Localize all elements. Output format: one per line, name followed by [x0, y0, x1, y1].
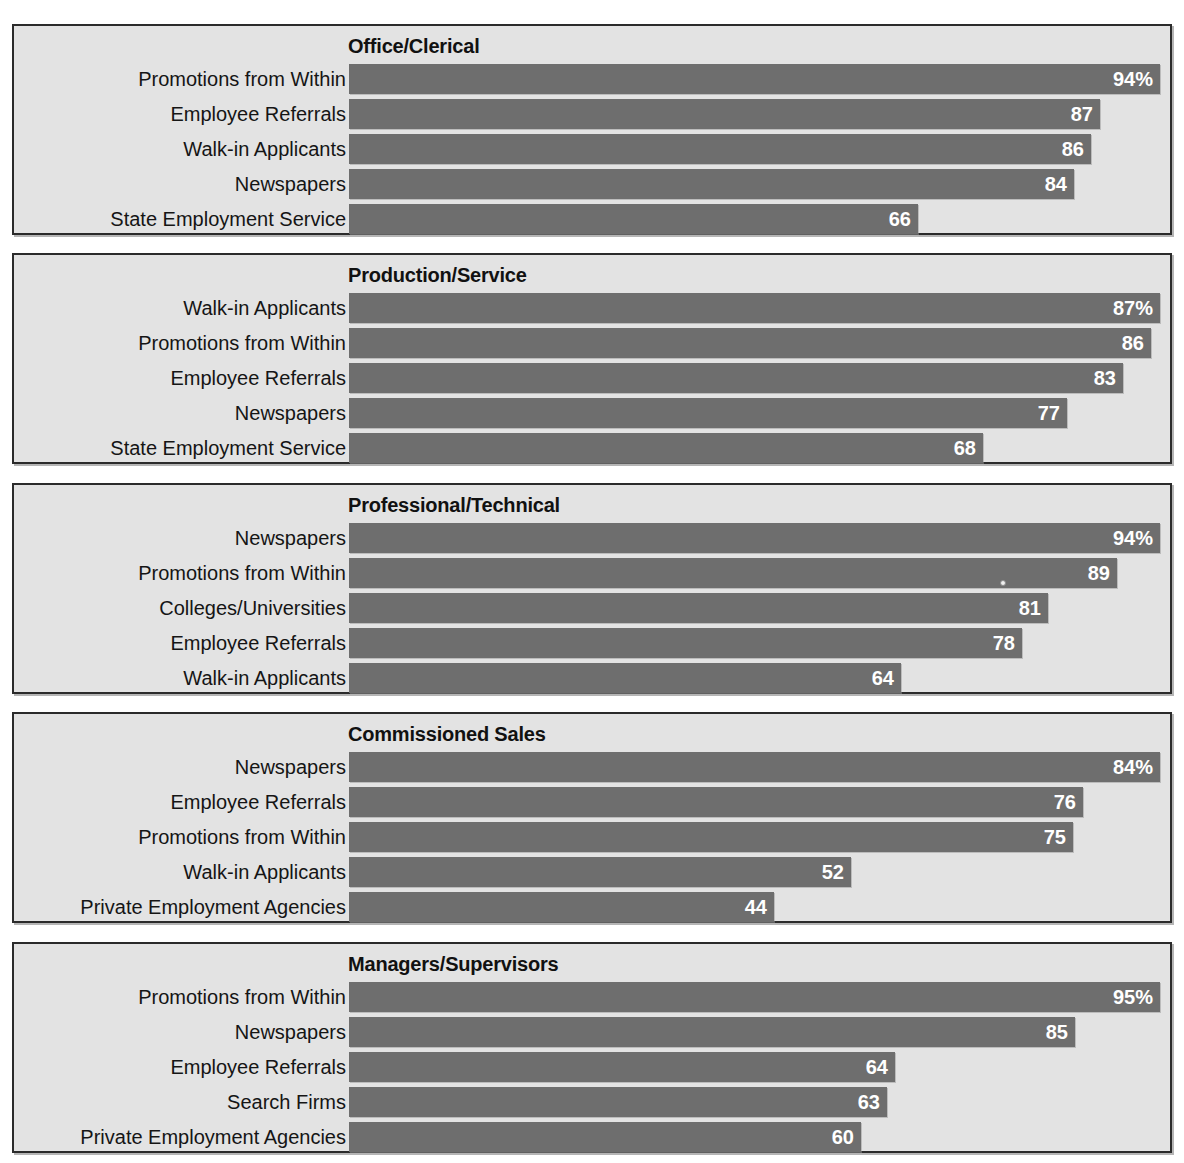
bar-track: 94%	[349, 64, 1156, 94]
bar-value-label: 63	[858, 1087, 880, 1117]
bar-track: 64	[349, 663, 1156, 693]
bar: 64	[349, 663, 901, 693]
bar-track: 75	[349, 822, 1156, 852]
bar-value-label: 60	[832, 1122, 854, 1152]
bar-row: Promotions from Within75	[14, 822, 1170, 852]
bar-value-label: 64	[866, 1052, 888, 1082]
panel-3: Professional/TechnicalNewspapers94%Promo…	[12, 483, 1172, 694]
bar-value-label: 76	[1054, 787, 1076, 817]
bar-track: 87%	[349, 293, 1156, 323]
panel-title: Professional/Technical	[348, 494, 560, 517]
bar: 83	[349, 363, 1123, 393]
bar-value-label: 77	[1038, 398, 1060, 428]
bar-row: Promotions from Within89	[14, 558, 1170, 588]
bar-value-label: 87	[1071, 99, 1093, 129]
bar-category-label: Walk-in Applicants	[0, 860, 346, 884]
bar-track: 85	[349, 1017, 1156, 1047]
bar-value-label: 83	[1094, 363, 1116, 393]
bar-value-label: 85	[1046, 1017, 1068, 1047]
bar-value-label: 87%	[1113, 293, 1153, 323]
bar-value-label: 84%	[1113, 752, 1153, 782]
bar-value-label: 75	[1044, 822, 1066, 852]
bar-track: 86	[349, 328, 1156, 358]
bar-value-label: 66	[889, 204, 911, 234]
bar-row: Employee Referrals83	[14, 363, 1170, 393]
bar-track: 66	[349, 204, 1156, 234]
bar-row: Promotions from Within95%	[14, 982, 1170, 1012]
bar-row: Newspapers85	[14, 1017, 1170, 1047]
bar: 63	[349, 1087, 887, 1117]
bar: 81	[349, 593, 1048, 623]
bar-category-label: Walk-in Applicants	[0, 137, 346, 161]
bar-track: 81	[349, 593, 1156, 623]
bar-track: 87	[349, 99, 1156, 129]
bar-row: Private Employment Agencies44	[14, 892, 1170, 922]
bar-value-label: 95%	[1113, 982, 1153, 1012]
bar-category-label: Promotions from Within	[0, 67, 346, 91]
bar-track: 84%	[349, 752, 1156, 782]
bar-category-label: Newspapers	[0, 526, 346, 550]
bar: 85	[349, 1017, 1075, 1047]
bar: 66	[349, 204, 918, 234]
bar-track: 52	[349, 857, 1156, 887]
bar-row: Promotions from Within86	[14, 328, 1170, 358]
bar-value-label: 86	[1122, 328, 1144, 358]
bar-row: Newspapers84%	[14, 752, 1170, 782]
bar: 94%	[349, 64, 1160, 94]
bar: 75	[349, 822, 1073, 852]
bar-track: 78	[349, 628, 1156, 658]
bar-row: State Employment Service68	[14, 433, 1170, 463]
bar-row: Search Firms63	[14, 1087, 1170, 1117]
bar-category-label: Newspapers	[0, 755, 346, 779]
bar-track: 86	[349, 134, 1156, 164]
bar-category-label: Search Firms	[0, 1090, 346, 1114]
panel-rows: Walk-in Applicants87%Promotions from Wit…	[14, 293, 1170, 468]
panel-rows: Promotions from Within94%Employee Referr…	[14, 64, 1170, 239]
bar: 86	[349, 328, 1151, 358]
bar-row: Promotions from Within94%	[14, 64, 1170, 94]
bar: 87%	[349, 293, 1160, 323]
bar-value-label: 89	[1088, 558, 1110, 588]
bar-row: Newspapers84	[14, 169, 1170, 199]
recruitment-sources-chart: Office/ClericalPromotions from Within94%…	[0, 0, 1184, 1163]
bar-track: 89	[349, 558, 1156, 588]
bar-value-label: 64	[872, 663, 894, 693]
bar-value-label: 68	[954, 433, 976, 463]
bar-value-label: 94%	[1113, 523, 1153, 553]
bar-row: State Employment Service66	[14, 204, 1170, 234]
bar-category-label: Private Employment Agencies	[0, 895, 346, 919]
bar: 95%	[349, 982, 1160, 1012]
panel-5: Managers/SupervisorsPromotions from With…	[12, 942, 1172, 1153]
bar-value-label: 84	[1045, 169, 1067, 199]
panel-title: Managers/Supervisors	[348, 953, 559, 976]
panel-title: Production/Service	[348, 264, 527, 287]
bar-category-label: Employee Referrals	[0, 631, 346, 655]
panel-title: Commissioned Sales	[348, 723, 546, 746]
bar: 60	[349, 1122, 861, 1152]
bar: 77	[349, 398, 1067, 428]
bar-value-label: 78	[993, 628, 1015, 658]
bar-category-label: Newspapers	[0, 401, 346, 425]
bar-row: Newspapers77	[14, 398, 1170, 428]
bar-track: 63	[349, 1087, 1156, 1117]
bar-row: Employee Referrals87	[14, 99, 1170, 129]
bar-value-label: 94%	[1113, 64, 1153, 94]
bar-row: Employee Referrals64	[14, 1052, 1170, 1082]
bar: 84	[349, 169, 1074, 199]
bar-category-label: Employee Referrals	[0, 102, 346, 126]
bar-category-label: Promotions from Within	[0, 331, 346, 355]
bar-value-label: 81	[1019, 593, 1041, 623]
bar-category-label: Promotions from Within	[0, 825, 346, 849]
bar-track: 84	[349, 169, 1156, 199]
panel-1: Office/ClericalPromotions from Within94%…	[12, 24, 1172, 235]
bar-track: 68	[349, 433, 1156, 463]
panel-2: Production/ServiceWalk-in Applicants87%P…	[12, 253, 1172, 464]
bar-row: Private Employment Agencies60	[14, 1122, 1170, 1152]
bar-category-label: Private Employment Agencies	[0, 1125, 346, 1149]
panel-rows: Promotions from Within95%Newspapers85Emp…	[14, 982, 1170, 1157]
bar-category-label: Walk-in Applicants	[0, 296, 346, 320]
bar-category-label: Promotions from Within	[0, 561, 346, 585]
bar-category-label: Newspapers	[0, 1020, 346, 1044]
bar-row: Employee Referrals76	[14, 787, 1170, 817]
panel-title: Office/Clerical	[348, 35, 480, 58]
